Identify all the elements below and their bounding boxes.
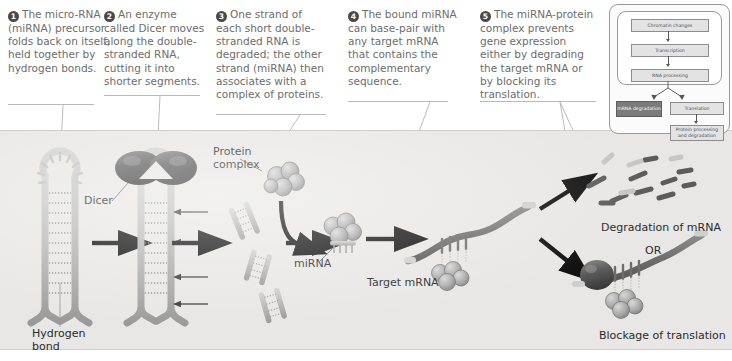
inset-box-translation: Translation (670, 102, 724, 115)
short-dsrna-fragments (228, 201, 287, 324)
outcome-arrow-degradation (540, 189, 572, 209)
protein-binding-arrow (281, 201, 300, 245)
mirna-precursor-hairpin (31, 151, 89, 327)
target-mrna-bound (404, 202, 536, 291)
diagram-artwork (0, 131, 732, 349)
outcome-arrow-blockage (540, 239, 570, 263)
label-mirna: miRNA (294, 257, 331, 270)
inset-box-protein-processing: Protein processing and degradation (670, 125, 724, 141)
inset-arrow-head-3 (694, 121, 698, 124)
label-hydrogen-bond-line1: Hydrogen (32, 327, 86, 340)
protein-complex-free (264, 162, 305, 196)
label-protein-complex-line1: Protein (213, 145, 252, 158)
label-protein-complex-line2: complex (213, 158, 260, 171)
label-or: OR (645, 244, 661, 257)
label-degradation-of-mrna: Degradation of mRNA (601, 221, 721, 234)
label-hydrogen-bond-line2: bond (32, 340, 60, 353)
label-target-mrna: Target mRNA (367, 276, 439, 289)
diagram-panel: Hydrogen bond Dicer Protein complex miRN… (0, 130, 732, 350)
blocked-translation-complex (572, 230, 708, 319)
label-dicer: Dicer (84, 194, 113, 207)
gene-expression-control-inset: Chromatin changes Transcription RNA proc… (609, 4, 730, 134)
dicer-cut-arrows (180, 212, 208, 304)
mirna-protein-complex (320, 213, 362, 261)
mirna-basepair-bars (442, 235, 466, 253)
degraded-mrna-fragments (589, 155, 694, 203)
dicer-cleavage-stage (112, 151, 208, 323)
inset-box-mrna-degradation: mRNA degradation (616, 101, 662, 117)
dicer-enzyme (115, 151, 197, 185)
label-blockage-of-translation: Blockage of translation (599, 329, 726, 342)
